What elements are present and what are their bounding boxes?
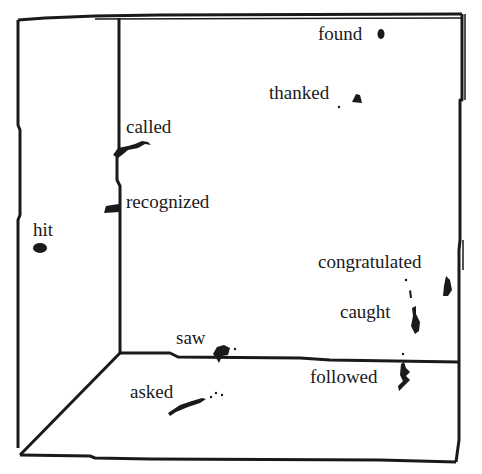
label-congratulated: congratulated [318, 252, 421, 271]
label-found: found [318, 24, 362, 43]
mark-saw [213, 345, 230, 363]
label-followed: followed [310, 367, 378, 386]
label-recognized: recognized [126, 192, 209, 211]
dot-followed [402, 353, 404, 355]
mark-asked [168, 398, 206, 416]
dot-saw-1 [234, 348, 236, 350]
mark-hit [33, 243, 47, 253]
mark-recognized [104, 204, 120, 213]
inner-floor-edge [120, 353, 459, 362]
bottom-edge [20, 455, 456, 462]
dot-asked-1 [210, 396, 212, 398]
label-caught: caught [340, 302, 391, 321]
diagonal-edge [20, 353, 120, 455]
dot-congratulated [405, 279, 408, 282]
mark-thanked [352, 94, 362, 103]
label-saw: saw [176, 328, 206, 347]
inner-vertical-edge [117, 18, 120, 353]
semantic-space-diagram [0, 0, 482, 474]
label-called: called [126, 117, 171, 136]
box-frame [18, 14, 465, 462]
dot-asked-2 [215, 392, 217, 394]
dot-asked-3 [221, 394, 223, 396]
dot-thanked [338, 106, 340, 108]
mark-caught-main [411, 306, 420, 334]
top-edge-inner [95, 18, 462, 19]
mark-congratulated [443, 276, 452, 296]
mark-caught [409, 290, 412, 298]
left-edge [18, 20, 20, 448]
mark-found [378, 29, 385, 39]
label-thanked: thanked [269, 83, 329, 102]
mark-followed [398, 362, 410, 391]
right-edge [456, 14, 462, 462]
label-hit: hit [33, 220, 53, 239]
label-asked: asked [130, 382, 173, 401]
